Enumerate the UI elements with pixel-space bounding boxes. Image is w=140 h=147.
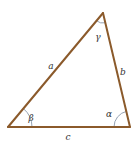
angle-arc-alpha (114, 111, 127, 127)
side-a-label: a (48, 62, 53, 71)
angle-alpha-label: α (106, 110, 112, 119)
triangle-diagram: a b c γ β α (0, 0, 140, 147)
side-c-label: c (65, 133, 70, 142)
triangle-figure (0, 0, 140, 147)
angle-gamma-label: γ (95, 33, 100, 42)
side-b-label: b (120, 68, 126, 77)
angle-arc-gamma (97, 21, 106, 23)
side-a (8, 13, 103, 127)
angle-beta-label: β (28, 114, 33, 123)
